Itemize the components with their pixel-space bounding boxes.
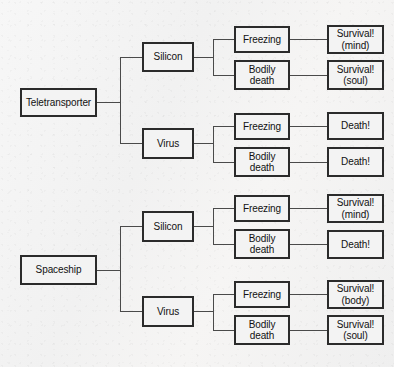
outcome-s-virus-bodily-death[interactable]: Survival! (soul): [327, 315, 384, 345]
connector-t-silicon-split: [213, 39, 214, 76]
connector-s-vi-to-bodily: [213, 330, 235, 331]
node-spaceship-virus[interactable]: Virus: [142, 296, 194, 327]
connector-t-vi-to-bodily: [213, 162, 235, 163]
node-t-virus-freezing[interactable]: Freezing: [234, 113, 290, 140]
connector-t-si-to-bodily: [213, 75, 235, 76]
connector-to-t-silicon: [120, 57, 143, 58]
outcome-s-silicon-freezing[interactable]: Survival! (mind): [327, 194, 384, 223]
connector-to-s-virus: [120, 311, 143, 312]
connector-s-silicon-split: [213, 208, 214, 245]
connector-s-virus-split: [213, 294, 214, 331]
connector-t-silicon-stem: [194, 57, 214, 58]
node-t-virus-bodily-death[interactable]: Bodily death: [234, 147, 290, 177]
connector-t-si-bodily-out: [290, 75, 328, 76]
connector-s-si-to-bodily: [213, 244, 235, 245]
decision-tree-diagram: Teletransporter Spaceship Silicon Virus …: [0, 0, 394, 367]
connector-spaceship-split: [120, 226, 121, 312]
connector-s-si-freezing-out: [290, 208, 328, 209]
node-t-silicon-freezing[interactable]: Freezing: [234, 26, 290, 53]
node-teletransporter-silicon[interactable]: Silicon: [142, 42, 194, 72]
outcome-t-virus-bodily-death[interactable]: Death!: [327, 147, 384, 177]
connector-t-vi-bodily-out: [290, 162, 328, 163]
connector-t-si-freezing-out: [290, 39, 328, 40]
outcome-t-silicon-freezing[interactable]: Survival! (mind): [327, 25, 384, 54]
connector-t-virus-split: [213, 126, 214, 163]
node-s-silicon-bodily-death[interactable]: Bodily death: [234, 229, 290, 259]
connector-spaceship-stem: [97, 270, 121, 271]
node-t-silicon-bodily-death[interactable]: Bodily death: [234, 60, 290, 90]
connector-s-si-bodily-out: [290, 244, 328, 245]
connector-teletransporter-split: [120, 57, 121, 144]
connector-to-s-silicon: [120, 226, 143, 227]
node-s-virus-freezing[interactable]: Freezing: [234, 281, 290, 308]
connector-s-silicon-stem: [194, 226, 214, 227]
connector-s-si-to-freezing: [213, 208, 235, 209]
connector-t-vi-to-freezing: [213, 126, 235, 127]
connector-t-virus-stem: [194, 143, 214, 144]
connector-to-t-virus: [120, 143, 143, 144]
connector-t-vi-freezing-out: [290, 126, 328, 127]
node-s-silicon-freezing[interactable]: Freezing: [234, 195, 290, 222]
node-teletransporter-virus[interactable]: Virus: [142, 128, 194, 159]
outcome-s-silicon-bodily-death[interactable]: Death!: [327, 230, 384, 259]
outcome-t-virus-freezing[interactable]: Death!: [327, 112, 384, 140]
connector-t-si-to-freezing: [213, 39, 235, 40]
node-teletransporter[interactable]: Teletransporter: [20, 88, 97, 117]
connector-teletransporter-stem: [97, 102, 121, 103]
connector-s-vi-bodily-out: [290, 330, 328, 331]
connector-s-vi-freezing-out: [290, 294, 328, 295]
outcome-t-silicon-bodily-death[interactable]: Survival! (soul): [327, 60, 384, 90]
node-spaceship[interactable]: Spaceship: [20, 255, 97, 285]
connector-s-vi-to-freezing: [213, 294, 235, 295]
node-s-virus-bodily-death[interactable]: Bodily death: [234, 315, 290, 345]
outcome-s-virus-freezing[interactable]: Survival! (body): [327, 280, 384, 309]
node-spaceship-silicon[interactable]: Silicon: [142, 211, 194, 242]
connector-s-virus-stem: [194, 311, 214, 312]
